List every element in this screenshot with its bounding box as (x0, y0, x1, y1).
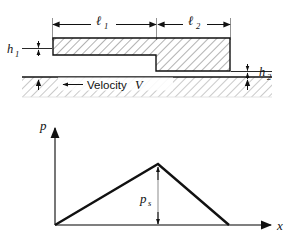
label-film-thickness-1: h (7, 42, 13, 56)
label-peak-pressure-subscript: s (148, 198, 152, 208)
label-velocity: Velocity (87, 79, 127, 91)
slider-block (53, 38, 230, 71)
label-film-thickness-1-subscript: 1 (15, 49, 19, 59)
engineering-diagram: ℓ 1 ℓ 2 h 1 h 2 (0, 0, 295, 245)
pressure-plot-x-axis-label: x (276, 218, 283, 233)
label-length-2: ℓ (188, 13, 194, 28)
label-peak-pressure: p (139, 191, 147, 206)
label-length-1-subscript: 1 (104, 21, 108, 31)
label-length-1: ℓ (96, 13, 102, 28)
dimension-h1 (22, 41, 52, 56)
pressure-plot-y-axis-label: p (39, 118, 47, 133)
label-backdrop-l2 (183, 13, 207, 28)
figure-root: ℓ 1 ℓ 2 h 1 h 2 (0, 0, 295, 245)
